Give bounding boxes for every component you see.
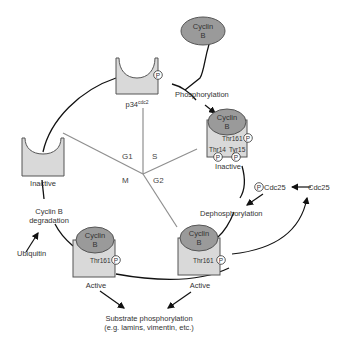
- thr161-label: Thr161: [222, 134, 243, 143]
- cdc25-label: Cdc25: [308, 183, 330, 192]
- cyclin-label-active-right: CyclinB: [189, 229, 209, 247]
- p-symbol: P: [114, 256, 118, 265]
- phosphorylation-label: Phosphorylation: [175, 90, 229, 99]
- cyclin-label-active-left: CyclinB: [85, 231, 105, 249]
- inactive-kinase-left: [22, 138, 64, 176]
- phase-m: M: [122, 176, 129, 185]
- p34-kinase-shape: [116, 58, 158, 94]
- phase-s: S: [152, 152, 157, 161]
- p-symbol: P: [246, 134, 250, 143]
- active-right-substrate-arrow: [168, 292, 191, 308]
- phase-g1: G1: [122, 152, 133, 161]
- cyclin-label-inactive: CyclinB: [217, 113, 237, 131]
- dephosphorylation-label: Dephosphorylation: [200, 209, 263, 218]
- arc-degradation-active: [55, 224, 73, 246]
- cyclin-label-top: CyclinB: [193, 22, 213, 40]
- pcdc25-to-dephos-arrow: [247, 194, 263, 205]
- ubiquitin-label: Ubiquitin: [17, 249, 46, 258]
- phos-to-inactive-arrow: [205, 105, 215, 113]
- p-symbol: P: [156, 71, 160, 80]
- thr161-label-left: Thr161: [90, 256, 111, 265]
- thr161-label-right: Thr161: [193, 256, 214, 265]
- active-to-cdc25-arrow: [232, 198, 307, 254]
- inactive-label-left: Inactive: [30, 179, 56, 188]
- phase-g2: G2: [153, 176, 164, 185]
- p-symbol: P: [216, 153, 220, 162]
- cyclin-b-degradation-label: Cyclin Bdegradation: [29, 207, 69, 225]
- cell-cycle-diagram: [0, 0, 346, 347]
- inactive-label-right: Inactive: [215, 162, 241, 171]
- phospho-cdc25-label: Cdc25: [264, 183, 286, 192]
- active-left-substrate-arrow: [100, 291, 124, 308]
- substrate-phosphorylation-label: Substrate phosphorylation(e.g. lamins, v…: [104, 314, 194, 332]
- p-symbol: P: [219, 256, 223, 265]
- p34cdc2-label: p34cdc2: [125, 98, 148, 109]
- p-symbol: P: [257, 183, 261, 192]
- phase-lines: [63, 108, 197, 227]
- active-label-right: Active: [190, 281, 210, 290]
- active-label-left: Active: [86, 281, 106, 290]
- p-symbol: P: [234, 153, 238, 162]
